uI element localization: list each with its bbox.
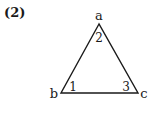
vertex-label-b: b xyxy=(50,86,58,101)
angle-label-1: 1 xyxy=(69,80,77,94)
vertex-label-c: c xyxy=(140,86,147,101)
angle-label-2: 2 xyxy=(95,31,103,45)
vertex-label-a: a xyxy=(95,8,103,23)
triangle-figure: (2) a b c 1 2 3 xyxy=(0,0,151,140)
figure-number-label: (2) xyxy=(4,6,25,19)
angle-label-3: 3 xyxy=(122,80,130,94)
triangle-diagram: a b c 1 2 3 xyxy=(0,0,151,140)
